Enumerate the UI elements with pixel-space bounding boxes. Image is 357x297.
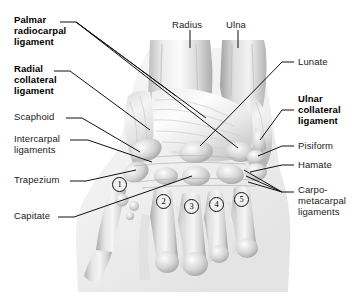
label-intercarpal-ligaments: Intercarpal ligaments xyxy=(14,133,60,155)
label-scaphoid: Scaphoid xyxy=(14,111,54,122)
label-carpometacarpal-ligaments: Carpo- metacarpal ligaments xyxy=(298,184,346,218)
anatomical-figure: Palmar radiocarpal ligament Radial colla… xyxy=(0,0,357,297)
callout-number-4: 4 xyxy=(209,197,224,212)
callout-number-5: 5 xyxy=(234,192,249,207)
label-radial-collateral-ligament: Radial collateral ligament xyxy=(14,63,57,97)
label-ulna: Ulna xyxy=(226,19,246,30)
label-capitate: Capitate xyxy=(14,210,50,221)
callout-number-2: 2 xyxy=(156,194,171,209)
callout-number-3: 3 xyxy=(184,199,199,214)
label-radius: Radius xyxy=(172,19,202,30)
label-palmar-radiocarpal-ligament: Palmar radiocarpal ligament xyxy=(14,14,66,48)
label-ulnar-collateral-ligament: Ulnar collateral ligament xyxy=(298,93,341,127)
label-pisiform: Pisiform xyxy=(298,140,333,151)
label-trapezium: Trapezium xyxy=(14,174,59,185)
label-lunate: Lunate xyxy=(298,56,328,67)
callout-number-1: 1 xyxy=(112,177,127,192)
label-hamate: Hamate xyxy=(298,159,332,170)
